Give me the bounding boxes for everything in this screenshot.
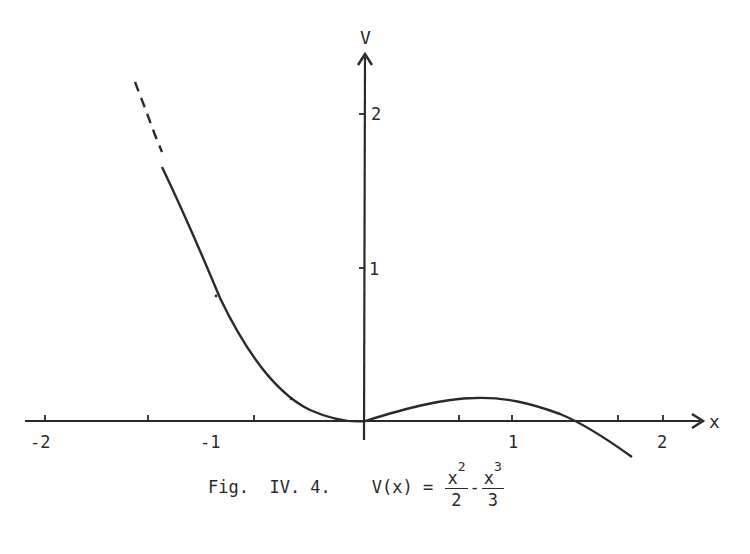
- y-tick-label: 1: [369, 259, 379, 279]
- curve-dashed-extension: [135, 82, 162, 152]
- curve-v-of-x: [162, 167, 632, 457]
- stray-dot: [215, 295, 218, 298]
- caption-fig-number: Fig. IV. 4.: [208, 477, 331, 497]
- fraction-x2-over-2: x2 2: [445, 465, 467, 510]
- figure-caption: Fig. IV. 4. V(x) = x2 2 - x3 3: [208, 465, 506, 510]
- x-axis-label: x: [709, 411, 720, 432]
- x-tick-label: -2: [30, 432, 50, 452]
- y-tick-label: 2: [371, 104, 381, 124]
- x-tick-label: 2: [657, 432, 667, 452]
- x-tick-label: 1: [508, 432, 518, 452]
- caption-lhs: V(x) =: [372, 477, 444, 497]
- fraction-x3-over-3: x3 3: [482, 465, 504, 510]
- stray-dot: [290, 398, 292, 400]
- y-axis-label: V: [360, 27, 371, 48]
- x-tick-label: -1: [200, 432, 220, 452]
- caption-minus: -: [470, 477, 480, 497]
